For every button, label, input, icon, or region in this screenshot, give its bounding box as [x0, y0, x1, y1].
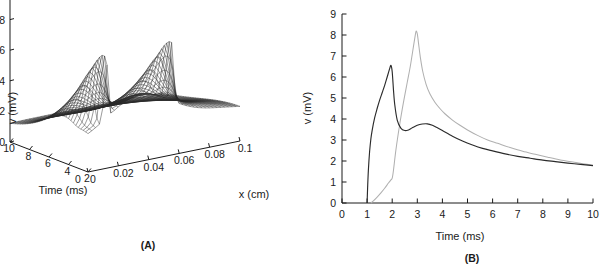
panel-a-x-axis-label: x (cm)	[239, 188, 270, 200]
panel-b-series-trace-dark	[367, 65, 593, 203]
svg-text:10: 10	[587, 208, 599, 220]
svg-text:4: 4	[65, 165, 71, 177]
svg-text:5: 5	[330, 92, 336, 104]
svg-text:7: 7	[515, 208, 521, 220]
svg-text:2: 2	[0, 105, 5, 117]
panel-b-tick-labels: 0123456789012345678910	[330, 8, 599, 220]
svg-text:0.1: 0.1	[238, 142, 253, 154]
panel-b-axes	[342, 14, 593, 203]
panel-a-label: (A)	[141, 239, 156, 251]
panel-b-line-plot: 0123456789012345678910 v (mV) Time (ms) …	[300, 0, 605, 270]
panel-a-z-axis-label: v (mV)	[6, 92, 18, 124]
two-panel-figure: 024681010864200.020.040.060.080.10 v (mV…	[0, 0, 605, 270]
svg-text:7: 7	[330, 50, 336, 62]
svg-text:4: 4	[439, 208, 445, 220]
svg-text:8: 8	[0, 14, 5, 26]
svg-text:2: 2	[330, 155, 336, 167]
svg-text:2: 2	[389, 208, 395, 220]
svg-text:3: 3	[330, 134, 336, 146]
svg-text:6: 6	[0, 44, 5, 56]
svg-text:3: 3	[414, 208, 420, 220]
svg-text:6: 6	[45, 157, 51, 169]
svg-text:6: 6	[330, 71, 336, 83]
panel-b-series-trace-light	[371, 31, 593, 203]
svg-text:10: 10	[3, 142, 15, 154]
panel-a-3d-surface-plot: 024681010864200.020.040.060.080.10 v (mV…	[0, 0, 300, 270]
svg-text:0: 0	[339, 208, 345, 220]
panel-a-y-axis-label: Time (ms)	[38, 184, 87, 196]
svg-text:0.06: 0.06	[174, 154, 195, 166]
panel-b-label: (B)	[465, 252, 480, 264]
svg-text:0.04: 0.04	[144, 161, 165, 173]
panel-a-axes	[10, 0, 240, 172]
panel-a-svg: 024681010864200.020.040.060.080.10 v (mV…	[0, 0, 300, 270]
svg-text:9: 9	[330, 8, 336, 20]
svg-text:6: 6	[490, 208, 496, 220]
svg-text:4: 4	[330, 113, 336, 125]
panel-b-y-axis-label: v (mV)	[301, 92, 313, 124]
svg-text:5: 5	[465, 208, 471, 220]
svg-text:0: 0	[90, 173, 96, 185]
panel-a-surface-mesh	[10, 42, 240, 134]
svg-text:8: 8	[540, 208, 546, 220]
svg-text:8: 8	[330, 29, 336, 41]
svg-text:8: 8	[26, 150, 32, 162]
svg-text:0.08: 0.08	[204, 148, 225, 160]
panel-a-tick-labels: 024681010864200.020.040.060.080.10	[0, 0, 252, 185]
svg-text:1: 1	[364, 208, 370, 220]
svg-text:4: 4	[0, 75, 5, 87]
panel-b-svg: 0123456789012345678910 v (mV) Time (ms) …	[300, 0, 605, 270]
panel-b-x-axis-label: Time (ms)	[435, 230, 484, 242]
svg-text:9: 9	[565, 208, 571, 220]
svg-text:1: 1	[330, 176, 336, 188]
svg-text:0: 0	[330, 197, 336, 209]
svg-text:0.02: 0.02	[113, 167, 134, 179]
